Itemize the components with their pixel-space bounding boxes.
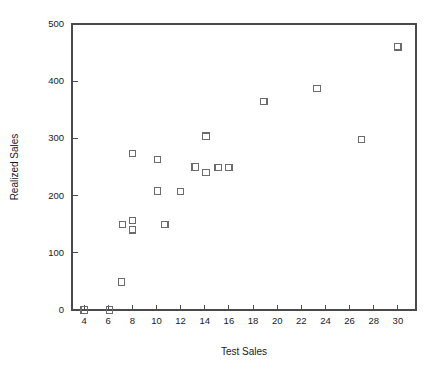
data-point-marker [120, 221, 126, 227]
x-tick-label: 16 [224, 315, 235, 326]
y-axis-title: Realized Sales [9, 134, 20, 201]
data-point-marker [203, 169, 209, 175]
data-point-marker [261, 98, 267, 104]
y-axis-ticks: 0100200300400500 [48, 18, 78, 315]
axis-frame [72, 24, 416, 310]
data-point-marker [203, 133, 209, 139]
data-point-marker [129, 151, 135, 157]
plot-frame [72, 24, 416, 310]
y-tick-label: 400 [48, 75, 64, 86]
x-tick-label: 6 [106, 315, 111, 326]
data-point-marker [162, 222, 168, 228]
x-tick-label: 20 [272, 315, 283, 326]
y-tick-label: 0 [59, 304, 64, 315]
x-tick-label: 18 [248, 315, 259, 326]
data-point-marker [314, 86, 320, 92]
data-point-marker [129, 227, 135, 233]
x-tick-label: 14 [199, 315, 210, 326]
x-tick-label: 30 [393, 315, 404, 326]
x-tick-label: 24 [320, 315, 331, 326]
y-tick-label: 100 [48, 247, 64, 258]
x-axis-title: Test Sales [221, 346, 267, 357]
y-tick-label: 300 [48, 132, 64, 143]
x-axis-ticks: 4681012141618202224262830 [81, 305, 403, 326]
data-point-marker [215, 164, 221, 170]
data-point-marker [226, 164, 232, 170]
x-tick-label: 12 [175, 315, 186, 326]
x-tick-label: 10 [151, 315, 162, 326]
data-point-marker [178, 189, 184, 195]
x-tick-label: 4 [81, 315, 86, 326]
data-point-marker [192, 164, 198, 170]
chart-svg: 0100200300400500 46810121416182022242628… [0, 0, 442, 375]
data-point-marker [129, 217, 135, 223]
data-point-marker [155, 188, 161, 194]
data-point-marker [395, 44, 401, 50]
data-point-marker [118, 279, 124, 285]
x-tick-label: 22 [296, 315, 307, 326]
data-point-marker [155, 156, 161, 162]
scatter-chart: 0100200300400500 46810121416182022242628… [0, 0, 442, 375]
y-tick-label: 200 [48, 190, 64, 201]
data-point-marker [359, 136, 365, 142]
x-tick-label: 26 [344, 315, 355, 326]
x-tick-label: 8 [130, 315, 135, 326]
y-tick-label: 500 [48, 18, 64, 29]
data-point-group [81, 44, 401, 313]
x-tick-label: 28 [368, 315, 379, 326]
